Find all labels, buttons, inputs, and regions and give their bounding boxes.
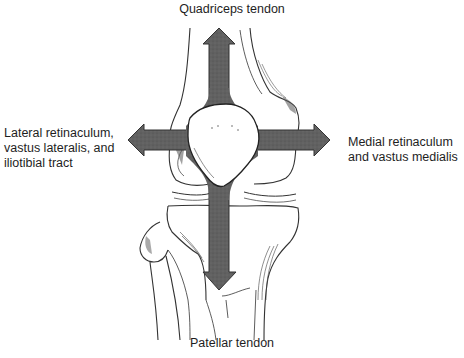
joint-line	[172, 192, 296, 202]
patella	[188, 104, 259, 187]
label-line: vastus lateralis, and	[4, 141, 114, 156]
label-line: Medial retinaculum	[348, 135, 458, 150]
label-lateral-restraints: Lateral retinaculum, vastus lateralis, a…	[4, 126, 114, 171]
label-line: and vastus medialis	[348, 150, 458, 165]
label-line: Lateral retinaculum,	[4, 126, 114, 141]
label-medial-restraints: Medial retinaculum and vastus medialis	[348, 135, 458, 165]
fibula-shading	[145, 236, 152, 254]
label-text: Quadriceps tendon	[179, 2, 285, 16]
label-quadriceps-tendon: Quadriceps tendon	[0, 2, 464, 17]
label-text: Patellar tendon	[190, 336, 274, 350]
label-line: iliotibial tract	[4, 156, 114, 171]
label-patellar-tendon: Patellar tendon	[0, 336, 464, 351]
knee-diagram	[0, 0, 464, 358]
